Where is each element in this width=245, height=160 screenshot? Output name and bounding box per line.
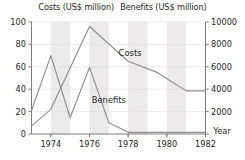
x-tick-label: 1976 bbox=[79, 139, 100, 149]
right-tick-label: 8000 bbox=[211, 39, 232, 49]
left-tick-label: 20 bbox=[16, 107, 26, 117]
background-band bbox=[51, 22, 70, 134]
annotation-costs: Costs bbox=[119, 48, 142, 58]
x-tick-marks bbox=[51, 134, 206, 137]
x-tick-label: 1982 bbox=[195, 139, 216, 149]
background-band bbox=[167, 22, 186, 134]
right-tick-label: 10000 bbox=[211, 17, 237, 27]
background-band bbox=[90, 22, 109, 134]
right-tick-label: 2000 bbox=[211, 107, 232, 117]
x-tick-labels: 19741976197819801982 bbox=[40, 139, 216, 149]
annotation-year: Year bbox=[212, 126, 231, 136]
right-tick-marks bbox=[206, 22, 209, 134]
right-tick-labels: 200040006000800010000 bbox=[211, 17, 237, 117]
left-tick-label: 100 bbox=[10, 17, 26, 27]
left-tick-label: 0 bbox=[21, 129, 26, 139]
left-tick-label: 80 bbox=[16, 39, 26, 49]
left-tick-marks bbox=[28, 22, 31, 134]
chart-container: Costs (US$ million) Benefits (US$ millio… bbox=[0, 0, 245, 160]
right-tick-label: 6000 bbox=[211, 62, 232, 72]
x-tick-label: 1980 bbox=[156, 139, 177, 149]
right-tick-label: 4000 bbox=[211, 84, 232, 94]
annotation-benefits: Benefits bbox=[92, 95, 126, 105]
background-band bbox=[128, 22, 147, 134]
x-tick-label: 1978 bbox=[118, 139, 139, 149]
left-tick-label: 60 bbox=[16, 62, 26, 72]
left-tick-labels: 020406080100 bbox=[10, 17, 26, 139]
chart-svg: 020406080100 200040006000800010000 19741… bbox=[0, 0, 245, 160]
x-tick-label: 1974 bbox=[40, 139, 61, 149]
left-tick-label: 40 bbox=[16, 84, 26, 94]
